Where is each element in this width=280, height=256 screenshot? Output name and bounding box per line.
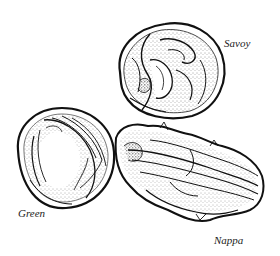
savoy-cabbage <box>119 23 224 118</box>
label-green: Green <box>18 208 45 219</box>
illustration-canvas: Savoy Green Nappa <box>0 0 280 256</box>
label-nappa: Nappa <box>214 235 243 246</box>
nappa-cabbage <box>116 122 264 221</box>
green-cabbage <box>18 108 114 208</box>
label-savoy: Savoy <box>224 38 250 49</box>
